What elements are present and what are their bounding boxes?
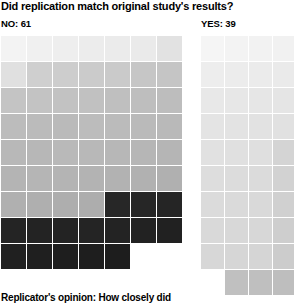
waffle-cell: [225, 114, 248, 139]
waffle-cell: [79, 88, 104, 113]
waffle-cell: [157, 114, 182, 139]
waffle-cell: [249, 140, 272, 165]
group-label-no: NO: 61: [1, 18, 31, 30]
waffle-cell: [225, 270, 248, 295]
waffle-cell: [105, 36, 130, 61]
waffle-cell: [131, 140, 156, 165]
waffle-cell: [53, 218, 78, 243]
waffle-cell: [249, 114, 272, 139]
waffle-cell: [1, 88, 26, 113]
waffle-cell: [27, 62, 52, 87]
waffle-cell: [273, 36, 294, 61]
waffle-cell: [201, 244, 224, 269]
waffle-cell: [79, 244, 104, 269]
waffle-cell: [249, 36, 272, 61]
waffle-cell: [105, 218, 130, 243]
waffle-cell: [79, 36, 104, 61]
waffle-cell: [273, 218, 294, 243]
waffle-cell: [157, 140, 182, 165]
waffle-cell: [201, 62, 224, 87]
waffle-grid-yes: [201, 36, 294, 295]
waffle-cell: [131, 166, 156, 191]
waffle-cell: [273, 192, 294, 217]
waffle-cell: [249, 192, 272, 217]
waffle-cell: [53, 244, 78, 269]
waffle-cell: [225, 88, 248, 113]
waffle-cell: [249, 218, 272, 243]
waffle-cell: [79, 62, 104, 87]
waffle-cell: [201, 140, 224, 165]
waffle-cell: [157, 62, 182, 87]
waffle-cell: [201, 114, 224, 139]
waffle-cell: [105, 88, 130, 113]
waffle-cell: [27, 88, 52, 113]
waffle-cell: [201, 166, 224, 191]
waffle-cell: [53, 36, 78, 61]
waffle-cell: [131, 88, 156, 113]
waffle-cell: [249, 270, 272, 295]
waffle-grid-no: [1, 36, 182, 269]
waffle-cell: [225, 62, 248, 87]
waffle-cell: [273, 244, 294, 269]
waffle-cell: [79, 114, 104, 139]
waffle-cell: [79, 166, 104, 191]
waffle-cell: [79, 140, 104, 165]
waffle-cell: [249, 166, 272, 191]
waffle-cell: [27, 114, 52, 139]
waffle-cell: [273, 88, 294, 113]
waffle-cell: [225, 140, 248, 165]
waffle-cell: [225, 192, 248, 217]
waffle-cell: [225, 218, 248, 243]
waffle-cell: [1, 140, 26, 165]
waffle-cell: [273, 166, 294, 191]
waffle-cell: [1, 192, 26, 217]
waffle-cell: [249, 62, 272, 87]
waffle-cell: [105, 140, 130, 165]
waffle-cell: [105, 192, 130, 217]
waffle-cell: [225, 166, 248, 191]
waffle-cell: [105, 114, 130, 139]
waffle-cell: [79, 218, 104, 243]
footer-note: Replicator's opinion: How closely did: [1, 292, 171, 304]
waffle-cell: [273, 140, 294, 165]
chart-title: Did replication match original study's r…: [1, 0, 233, 13]
waffle-cell: [105, 166, 130, 191]
waffle-cell: [157, 192, 182, 217]
waffle-cell: [1, 36, 26, 61]
waffle-cell: [53, 166, 78, 191]
waffle-cell: [201, 218, 224, 243]
waffle-cell: [131, 62, 156, 87]
waffle-cell: [249, 88, 272, 113]
waffle-cell: [131, 218, 156, 243]
waffle-cell: [27, 36, 52, 61]
waffle-cell: [53, 88, 78, 113]
waffle-cell: [225, 244, 248, 269]
waffle-cell: [105, 62, 130, 87]
waffle-cell: [27, 218, 52, 243]
waffle-cell: [53, 114, 78, 139]
waffle-cell: [273, 114, 294, 139]
waffle-cell: [27, 192, 52, 217]
waffle-cell: [27, 140, 52, 165]
waffle-cell: [53, 192, 78, 217]
waffle-cell: [1, 218, 26, 243]
waffle-cell: [131, 114, 156, 139]
waffle-cell-empty: [201, 270, 224, 295]
waffle-cell: [201, 88, 224, 113]
waffle-cell: [249, 244, 272, 269]
waffle-cell: [131, 36, 156, 61]
waffle-cell: [157, 218, 182, 243]
waffle-cell: [157, 166, 182, 191]
waffle-cell: [225, 36, 248, 61]
waffle-cell: [201, 36, 224, 61]
waffle-cell: [1, 114, 26, 139]
waffle-cell: [105, 244, 130, 269]
waffle-cell: [1, 244, 26, 269]
waffle-cell: [201, 192, 224, 217]
waffle-cell: [27, 166, 52, 191]
waffle-cell: [1, 166, 26, 191]
waffle-cell: [79, 192, 104, 217]
replication-waffle-chart: Did replication match original study's r…: [0, 0, 294, 304]
waffle-cell: [273, 270, 294, 295]
waffle-cell: [157, 88, 182, 113]
